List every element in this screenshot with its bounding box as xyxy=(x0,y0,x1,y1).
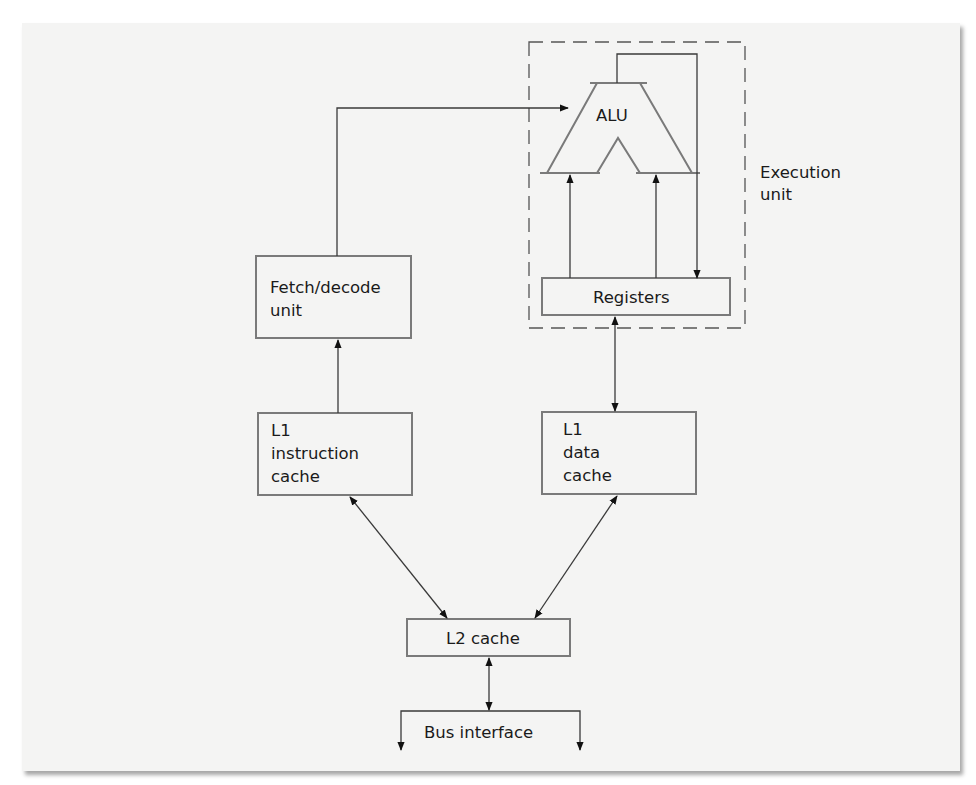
l1-instruction-cache-node: L1 instruction cache xyxy=(258,413,412,495)
fetch-decode-label-line2: unit xyxy=(270,301,302,320)
l1-data-cache-node: L1 data cache xyxy=(542,412,696,494)
fetch-decode-node: Fetch/decode unit xyxy=(256,256,411,338)
alu-shape xyxy=(547,83,692,173)
execution-unit-label-line1: Execution xyxy=(760,163,841,182)
l1-data-label-line3: cache xyxy=(563,466,612,485)
execution-unit-boundary xyxy=(529,42,745,328)
edge-fetch-to-alu xyxy=(337,108,568,256)
alu-node: ALU xyxy=(540,83,700,173)
l1-instruction-label-line3: cache xyxy=(271,467,320,486)
registers-node: Registers xyxy=(542,278,730,315)
edge-l1d-l2 xyxy=(535,496,617,618)
l2-cache-node: L2 cache xyxy=(407,619,570,656)
l1-instruction-label-line1: L1 xyxy=(271,421,291,440)
alu-label: ALU xyxy=(596,106,628,125)
cpu-architecture-diagram: Execution unit ALU Registers Fetch/decod… xyxy=(0,0,976,785)
registers-label: Registers xyxy=(593,288,670,307)
l1-data-label-line2: data xyxy=(563,443,600,462)
bus-interface-node: Bus interface xyxy=(401,711,580,750)
l1-data-label-line1: L1 xyxy=(563,420,583,439)
edge-alu-to-registers xyxy=(617,54,697,278)
l1-instruction-label-line2: instruction xyxy=(271,444,359,463)
execution-unit-label-line2: unit xyxy=(760,185,792,204)
fetch-decode-label-line1: Fetch/decode xyxy=(270,278,381,297)
l2-cache-label: L2 cache xyxy=(446,629,520,648)
fetch-decode-box xyxy=(256,256,411,338)
edge-l1i-l2 xyxy=(350,497,447,618)
bus-interface-label: Bus interface xyxy=(424,723,533,742)
